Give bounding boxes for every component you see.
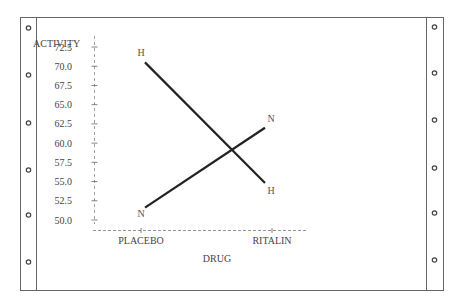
hole-icon — [432, 258, 436, 262]
tractor-feed-holes — [26, 25, 436, 264]
hole-icon — [432, 166, 436, 170]
hole-icon — [432, 211, 436, 215]
series-line — [145, 62, 265, 183]
hole-icon — [432, 25, 436, 29]
hole-icon — [26, 121, 30, 125]
y-tick-label: 67.5 — [55, 80, 73, 91]
hole-icon — [432, 118, 436, 122]
y-tick-label: 70.0 — [55, 61, 73, 72]
series-line — [145, 128, 265, 208]
y-tick-label: 60.0 — [55, 138, 73, 149]
hole-icon — [26, 168, 30, 172]
chart-canvas: ACTIVITY 72.570.067.565.062.560.057.555.… — [0, 0, 460, 302]
y-tick-label: 57.5 — [55, 157, 73, 168]
series-n: NN — [137, 113, 274, 219]
y-tick-label: 62.5 — [55, 118, 73, 129]
y-tick-label: 55.0 — [55, 176, 73, 187]
x-tick-label: RITALIN — [252, 235, 291, 246]
hole-icon — [26, 26, 30, 30]
y-axis: ACTIVITY 72.570.067.565.062.560.057.555.… — [33, 36, 98, 226]
paper-frame — [21, 18, 444, 291]
hole-icon — [26, 213, 30, 217]
point-label: N — [267, 113, 274, 124]
hole-icon — [26, 73, 30, 77]
y-tick-label: 65.0 — [55, 99, 73, 110]
y-tick-label: 52.5 — [55, 195, 73, 206]
x-axis: PLACEBORITALIN DRUG — [93, 228, 308, 264]
point-label: H — [137, 47, 144, 58]
hole-icon — [26, 260, 30, 264]
x-axis-label: DRUG — [203, 253, 231, 264]
x-tick-label: PLACEBO — [118, 235, 164, 246]
point-label: N — [137, 208, 144, 219]
point-label: H — [267, 185, 274, 196]
y-tick-label: 72.5 — [55, 42, 73, 53]
plot-series: HHNN — [137, 47, 274, 218]
hole-icon — [432, 71, 436, 75]
y-tick-label: 50.0 — [55, 215, 73, 226]
series-h: HH — [137, 47, 274, 196]
